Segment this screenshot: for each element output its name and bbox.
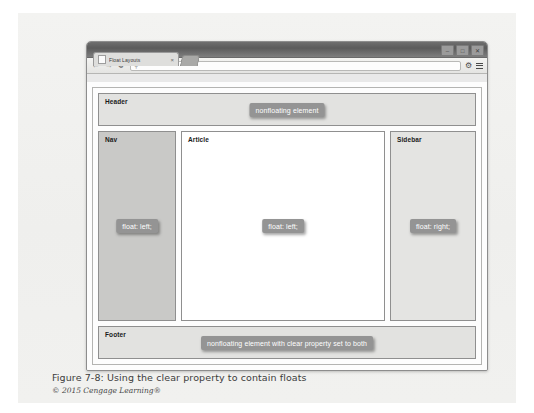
tab-float-layouts[interactable]: Float Layouts ×	[93, 52, 179, 66]
nav-label: Nav	[105, 136, 117, 143]
footer-badge: nonfloating element with clear property …	[201, 336, 373, 350]
header-label: Header	[105, 98, 128, 105]
sidebar-badge: float: right;	[410, 219, 456, 233]
tab-title: Float Layouts	[109, 57, 167, 63]
browser-window: – □ ✕ Float Layouts × ← → ⟳ ⚲	[86, 41, 488, 371]
figure-caption: Figure 7-8: Using the clear property to …	[52, 372, 472, 383]
nav-badge: float: left;	[116, 219, 158, 233]
page-wrapper: Header nonfloating element Nav float: le…	[92, 87, 482, 365]
tab-strip: Float Layouts ×	[87, 50, 487, 66]
figure-credit: © 2015 Cengage Learning®	[52, 386, 472, 395]
tab-close-icon[interactable]: ×	[170, 57, 174, 63]
header-badge: nonfloating element	[250, 103, 325, 117]
browser-viewport: Header nonfloating element Nav float: le…	[87, 82, 487, 370]
footer-block: Footer nonfloating element with clear pr…	[98, 326, 476, 359]
sidebar-label: Sidebar	[397, 136, 422, 143]
browser-title-bar: – □ ✕ Float Layouts ×	[87, 42, 487, 58]
header-block: Header nonfloating element	[98, 93, 476, 126]
article-block: Article float: left;	[181, 131, 385, 321]
page-favicon-icon	[98, 55, 106, 64]
columns-row: Nav float: left; Article float: left; Si…	[98, 131, 476, 321]
footer-label: Footer	[105, 331, 126, 338]
article-badge: float: left;	[262, 219, 304, 233]
article-label: Article	[188, 136, 209, 143]
figure-plate: – □ ✕ Float Layouts × ← → ⟳ ⚲	[18, 13, 516, 403]
sidebar-block: Sidebar float: right;	[390, 131, 476, 321]
new-tab-button[interactable]	[180, 55, 200, 66]
caption-area: Figure 7-8: Using the clear property to …	[52, 372, 472, 395]
nav-block: Nav float: left;	[98, 131, 176, 321]
